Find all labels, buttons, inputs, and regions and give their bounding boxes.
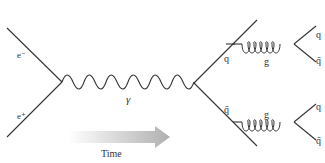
photon-label: γ (126, 93, 131, 105)
top-out-quark (294, 26, 316, 44)
gluon-top-label: g (264, 56, 269, 67)
antiquark-label: q̄ (224, 104, 229, 115)
electron-line (7, 28, 62, 82)
bottom-out-antiquark-label: q̄ (316, 135, 321, 146)
bottom-out-quark-label: q (316, 101, 321, 112)
gluon-bottom-label: g (264, 109, 269, 120)
top-out-antiquark-label: q̄ (316, 55, 321, 66)
time-arrow (68, 126, 170, 148)
electron-label: e⁻ (17, 50, 26, 60)
positron-line (7, 82, 62, 137)
quark-label: q (224, 53, 229, 64)
top-out-quark-label: q (316, 29, 321, 40)
bottom-out-quark (294, 104, 316, 122)
bottom-out-antiquark (294, 122, 316, 140)
time-label: Time (101, 148, 122, 159)
feynman-diagram: e⁻ e⁺ γ q q̄ g g q q̄ q q̄ Time (0, 0, 325, 163)
top-out-antiquark (294, 44, 316, 62)
positron-label: e⁺ (17, 111, 26, 121)
quark-line (194, 20, 257, 83)
photon-wave (62, 75, 194, 89)
